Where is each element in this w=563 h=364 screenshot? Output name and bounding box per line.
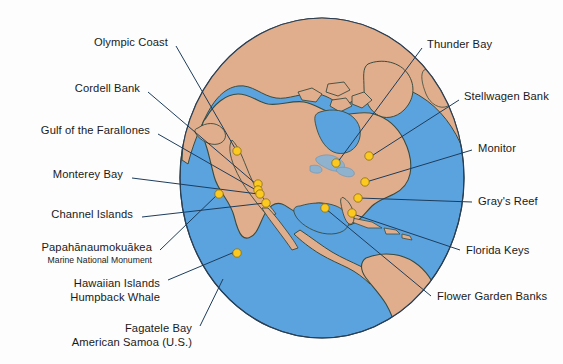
label-sub-papahanaumokuakea: Marine National Monument: [0, 255, 152, 266]
marker-channel-islands[interactable]: [262, 199, 270, 207]
label-monitor[interactable]: Monitor: [478, 142, 516, 156]
label-cordell-bank[interactable]: Cordell Bank: [0, 82, 140, 96]
label-name-olympic-coast: Olympic Coast: [94, 36, 168, 48]
label-florida-keys[interactable]: Florida Keys: [466, 244, 529, 258]
label-name-flower-garden-banks: Flower Garden Banks: [437, 290, 547, 302]
great-lakes-west: [310, 165, 322, 173]
marker-monitor[interactable]: [361, 178, 369, 186]
label-sub-hawaiian-humpback: Humpback Whale: [0, 291, 160, 305]
marker-stellwagen-bank[interactable]: [365, 152, 373, 160]
leader-line-fagatele-bay: [200, 279, 223, 326]
label-name-florida-keys: Florida Keys: [466, 244, 529, 256]
label-name-thunder-bay: Thunder Bay: [427, 38, 492, 50]
label-papahanaumokuakea[interactable]: PapahānaumokuākeaMarine National Monumen…: [0, 241, 152, 265]
marker-grays-reef[interactable]: [354, 194, 362, 202]
label-name-cordell-bank: Cordell Bank: [75, 82, 140, 94]
globe-illustration: [0, 0, 563, 364]
marker-papahanaumokuakea[interactable]: [215, 190, 223, 198]
marker-thunder-bay[interactable]: [332, 159, 340, 167]
label-fagatele-bay[interactable]: Fagatele BayAmerican Samoa (U.S.): [0, 322, 192, 349]
label-stellwagen-bank[interactable]: Stellwagen Bank: [464, 90, 549, 104]
label-name-gulf-farallones: Gulf of the Farallones: [41, 124, 150, 136]
label-channel-islands[interactable]: Channel Islands: [0, 208, 133, 222]
marine-sanctuaries-map: Olympic CoastCordell BankGulf of the Far…: [0, 0, 563, 364]
label-olympic-coast[interactable]: Olympic Coast: [0, 36, 168, 50]
label-gulf-farallones[interactable]: Gulf of the Farallones: [0, 124, 150, 138]
label-name-papahanaumokuakea: Papahānaumokuākea: [41, 241, 152, 253]
marker-hawaiian-humpback[interactable]: [233, 249, 241, 257]
label-name-monitor: Monitor: [478, 142, 516, 154]
label-monterey-bay[interactable]: Monterey Bay: [0, 168, 123, 182]
marker-flower-garden-banks[interactable]: [321, 204, 329, 212]
label-name-channel-islands: Channel Islands: [51, 208, 133, 220]
label-grays-reef[interactable]: Gray's Reef: [478, 195, 538, 209]
label-name-fagatele-bay: Fagatele Bay: [125, 322, 192, 334]
marker-olympic-coast[interactable]: [233, 147, 241, 155]
label-name-monterey-bay: Monterey Bay: [53, 168, 123, 180]
label-hawaiian-humpback[interactable]: Hawaiian IslandsHumpback Whale: [0, 277, 160, 304]
label-name-grays-reef: Gray's Reef: [478, 195, 538, 207]
label-sub-fagatele-bay: American Samoa (U.S.): [0, 336, 192, 350]
label-name-hawaiian-humpback: Hawaiian Islands: [74, 277, 160, 289]
marker-florida-keys[interactable]: [348, 209, 356, 217]
label-name-stellwagen-bank: Stellwagen Bank: [464, 90, 549, 102]
label-flower-garden-banks[interactable]: Flower Garden Banks: [437, 290, 547, 304]
marker-monterey-bay[interactable]: [256, 190, 264, 198]
label-thunder-bay[interactable]: Thunder Bay: [427, 38, 492, 52]
